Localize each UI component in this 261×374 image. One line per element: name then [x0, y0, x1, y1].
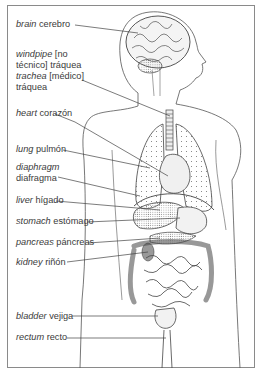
label-heart: heart corazón: [16, 108, 72, 119]
label-kidney: kidney riñón: [16, 257, 66, 268]
label-pancreas-es: páncreas: [56, 237, 94, 247]
label-brain-en: brain: [16, 19, 36, 29]
label-bladder: bladder vejiga: [16, 311, 73, 322]
rectum-drawing: [162, 330, 172, 368]
label-trachea-es: tráquea: [16, 82, 47, 92]
label-pancreas-en: pancreas: [16, 237, 54, 247]
label-trachea-en: trachea: [16, 71, 47, 81]
label-stomach-en: stomach: [16, 216, 51, 226]
label-lung: lung pulmón: [16, 144, 66, 155]
bladder-drawing: [155, 308, 176, 328]
label-rectum-en: rectum: [16, 332, 44, 342]
label-windpipe-en: windpipe: [16, 49, 52, 59]
label-bladder-en: bladder: [16, 311, 47, 321]
label-diaphragm-es: diafragma: [16, 173, 57, 183]
label-brain-es: cerebro: [39, 19, 70, 29]
label-bladder-es: vejiga: [49, 311, 73, 321]
label-pancreas: pancreas páncreas: [16, 237, 94, 248]
label-lung-es: pulmón: [36, 144, 66, 154]
label-liver-en: liver: [16, 195, 33, 205]
label-liver-es: hígado: [35, 195, 63, 205]
label-brain: brain cerebro: [16, 19, 70, 30]
label-kidney-en: kidney: [16, 257, 43, 267]
label-rectum-es: recto: [47, 332, 67, 342]
label-lung-en: lung: [16, 144, 33, 154]
label-diaphragm-en: diaphragm: [16, 162, 59, 172]
label-diaphragm: diaphragm diafragma: [16, 162, 59, 184]
label-liver: liver hígado: [16, 195, 64, 206]
label-heart-es: corazón: [40, 108, 73, 118]
label-windpipe-es: técnico] tráquea: [16, 60, 81, 70]
label-heart-en: heart: [16, 108, 37, 118]
label-stomach-es: estómago: [53, 216, 93, 226]
label-kidney-es: riñón: [45, 257, 65, 267]
label-trachea-note: [médico]: [49, 71, 84, 81]
label-trachea: trachea [médico] tráquea: [16, 71, 84, 93]
label-rectum: rectum recto: [16, 332, 67, 343]
small-intestine-drawing: [144, 255, 202, 307]
brain-drawing: [126, 16, 190, 96]
label-stomach: stomach estómago: [16, 216, 94, 227]
label-windpipe-note: [no: [55, 49, 68, 59]
label-windpipe: windpipe [no técnico] tráquea: [16, 49, 81, 71]
